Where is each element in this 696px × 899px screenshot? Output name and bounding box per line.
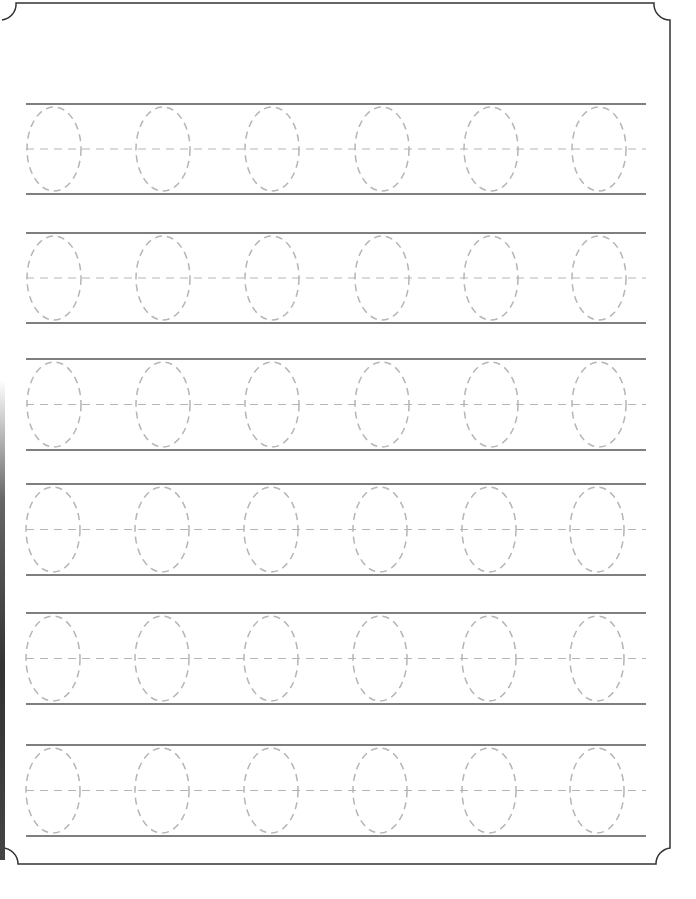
page-border <box>2 3 670 864</box>
tracing-row <box>26 104 646 194</box>
tracing-row <box>26 484 646 575</box>
tracing-row <box>26 745 646 836</box>
worksheet-canvas <box>0 0 696 899</box>
tracing-row <box>26 233 646 323</box>
tracing-row <box>26 613 646 704</box>
page-edge-shadow <box>0 380 5 860</box>
tracing-worksheet <box>0 0 696 899</box>
tracing-rows <box>26 104 646 836</box>
tracing-row <box>26 359 646 450</box>
